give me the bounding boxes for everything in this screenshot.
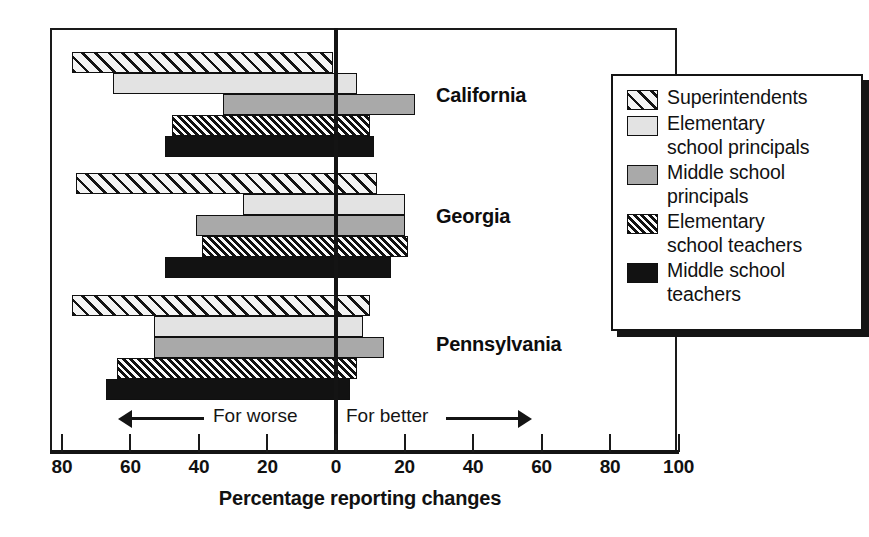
x-tick-label-4: 0: [306, 456, 366, 478]
legend-item-4[interactable]: Middle schoolteachers: [627, 259, 861, 306]
group-label-georgia: Georgia: [436, 205, 510, 228]
legend-swatch-icon-4: [627, 263, 658, 283]
arrow-right-icon: [518, 410, 532, 428]
arrow-right-line: [446, 417, 518, 420]
bar-pennsylvania-middle-school-teachers: [106, 379, 349, 400]
x-tick-2: [198, 434, 200, 452]
x-tick-9: [678, 434, 680, 452]
x-tick-8: [609, 434, 611, 452]
x-tick-3: [266, 434, 268, 452]
zero-reference-line: [334, 28, 338, 452]
arrow-left-icon: [118, 410, 132, 428]
legend-label-4: Middle schoolteachers: [667, 259, 785, 306]
legend-swatch-icon-2: [627, 165, 658, 185]
bar-georgia-elementary-school-teachers: [202, 236, 408, 257]
for-better-label: For better: [346, 405, 428, 427]
x-tick-1: [129, 434, 131, 452]
group-label-california: California: [436, 84, 526, 107]
x-tick-label-9: 100: [649, 456, 709, 478]
legend-label-3: Elementaryschool teachers: [667, 210, 802, 257]
legend-swatch-icon-1: [627, 116, 658, 136]
legend-label-2: Middle schoolprincipals: [667, 161, 785, 208]
bar-california-elementary-school-teachers: [172, 115, 371, 136]
legend-label-1: Elementaryschool principals: [667, 112, 809, 159]
bar-pennsylvania-superintendents: [72, 295, 370, 316]
legend-label-0: Superintendents: [667, 86, 808, 110]
legend-swatch-icon-0: [627, 90, 658, 110]
bar-california-elementary-school-principals: [113, 73, 356, 94]
bar-pennsylvania-elementary-school-principals: [154, 316, 363, 337]
legend-swatch-icon-3: [627, 214, 658, 234]
legend-item-0[interactable]: Superintendents: [627, 86, 861, 110]
for-worse-label: For worse: [213, 405, 297, 427]
x-tick-label-3: 20: [237, 456, 297, 478]
legend-item-1[interactable]: Elementaryschool principals: [627, 112, 861, 159]
x-tick-label-0: 80: [32, 456, 92, 478]
x-tick-label-6: 40: [443, 456, 503, 478]
x-axis-title: Percentage reporting changes: [0, 487, 720, 510]
bar-georgia-middle-school-teachers: [165, 257, 391, 278]
bar-california-middle-school-principals: [223, 94, 415, 115]
x-tick-label-7: 60: [512, 456, 572, 478]
bar-pennsylvania-elementary-school-teachers: [117, 358, 357, 379]
x-tick-0: [61, 434, 63, 452]
bar-georgia-middle-school-principals: [196, 215, 405, 236]
chart-legend: SuperintendentsElementaryschool principa…: [611, 74, 863, 331]
bar-california-middle-school-teachers: [165, 136, 374, 157]
x-tick-5: [404, 434, 406, 452]
bar-california-superintendents: [72, 52, 332, 73]
direction-annotation: For worse For better: [50, 405, 679, 433]
x-tick-label-2: 40: [169, 456, 229, 478]
legend-item-2[interactable]: Middle schoolprincipals: [627, 161, 861, 208]
x-tick-6: [472, 434, 474, 452]
x-tick-label-1: 60: [100, 456, 160, 478]
x-tick-4: [335, 434, 337, 452]
bar-pennsylvania-middle-school-principals: [154, 337, 384, 358]
bar-georgia-superintendents: [76, 173, 378, 194]
legend-item-3[interactable]: Elementaryschool teachers: [627, 210, 861, 257]
arrow-left-line: [132, 417, 204, 420]
x-tick-label-5: 20: [375, 456, 435, 478]
group-label-pennsylvania: Pennsylvania: [436, 333, 561, 356]
bar-georgia-elementary-school-principals: [243, 194, 404, 215]
x-tick-label-8: 80: [580, 456, 640, 478]
x-axis-line: [50, 450, 679, 454]
x-tick-7: [541, 434, 543, 452]
